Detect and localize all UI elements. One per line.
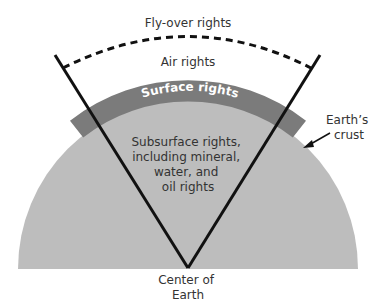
center-of-earth-label: Center of Earth (158, 273, 218, 302)
earths-crust-label: Earth’s crust (326, 113, 372, 142)
property-rights-diagram: Fly-over rights Air rights Surface right… (0, 0, 377, 305)
crust-arrow-head-icon (303, 140, 314, 148)
flyover-rights-label: Fly-over rights (145, 16, 232, 30)
air-rights-label: Air rights (161, 55, 216, 69)
